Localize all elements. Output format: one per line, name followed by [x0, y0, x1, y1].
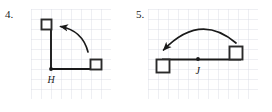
center-point [49, 67, 53, 71]
preimage-square [91, 60, 102, 70]
worksheet-page: 4. [0, 0, 272, 112]
problem-4-figure: H [31, 9, 111, 99]
problem-4: 4. [0, 0, 136, 112]
problem-5-number: 5. [136, 9, 144, 20]
problem-5-diagram: J [148, 9, 258, 99]
image-square [157, 60, 170, 73]
image-square [42, 20, 52, 30]
problem-5: 5. [136, 0, 272, 112]
preimage-square [230, 47, 243, 60]
problem-4-number: 4. [5, 9, 13, 20]
center-point-label: J [196, 65, 201, 76]
center-point [196, 57, 200, 61]
center-point-label: H [47, 74, 56, 85]
problem-5-figure: J [148, 9, 258, 99]
problem-4-diagram: H [31, 9, 111, 99]
